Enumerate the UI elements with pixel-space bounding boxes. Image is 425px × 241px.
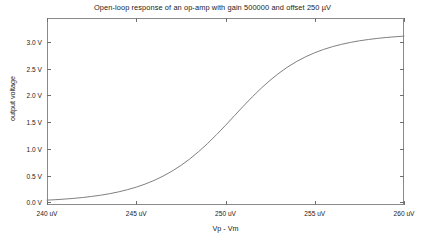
y-tick-label: 1.5 V: [27, 119, 42, 126]
x-tick-label: 240 uV: [37, 210, 58, 217]
chart-figure: Open-loop response of an op-amp with gai…: [0, 0, 425, 241]
x-tick-mark: [136, 201, 137, 205]
y-tick-label: 1.0 V: [27, 145, 42, 152]
x-tick-label: 260 uV: [394, 210, 415, 217]
y-tick-mark-right: [400, 176, 404, 177]
y-tick-label: 0.0 V: [27, 199, 42, 206]
x-tick-mark: [47, 201, 48, 205]
x-tick-label: 245 uV: [126, 210, 147, 217]
y-tick-label: 2.5 V: [27, 65, 42, 72]
y-tick-mark-right: [400, 149, 404, 150]
y-tick-mark: [47, 149, 51, 150]
x-tick-mark-top: [136, 18, 137, 22]
x-tick-mark-top: [47, 18, 48, 22]
x-axis-label: Vp - Vm: [47, 224, 404, 233]
y-axis-label: output voltage: [8, 59, 17, 139]
open-loop-response-curve: [47, 18, 404, 205]
y-tick-mark: [47, 95, 51, 96]
y-tick-mark: [47, 69, 51, 70]
x-tick-mark: [226, 201, 227, 205]
y-tick-mark-right: [400, 122, 404, 123]
y-tick-mark: [47, 176, 51, 177]
y-tick-mark-right: [400, 42, 404, 43]
y-tick-mark-right: [400, 69, 404, 70]
y-tick-label: 2.0 V: [27, 92, 42, 99]
x-tick-label: 250 uV: [215, 210, 236, 217]
x-tick-mark-top: [404, 18, 405, 22]
y-tick-mark: [47, 122, 51, 123]
x-tick-mark-top: [226, 18, 227, 22]
y-tick-mark-right: [400, 95, 404, 96]
y-tick-label: 3.0 V: [27, 39, 42, 46]
y-tick-mark: [47, 42, 51, 43]
y-tick-label: 0.5 V: [27, 172, 42, 179]
chart-title: Open-loop response of an op-amp with gai…: [0, 3, 425, 12]
plot-area: [47, 18, 404, 205]
x-tick-label: 255 uV: [304, 210, 325, 217]
x-tick-mark-top: [315, 18, 316, 22]
x-tick-mark: [315, 201, 316, 205]
x-tick-mark: [404, 201, 405, 205]
